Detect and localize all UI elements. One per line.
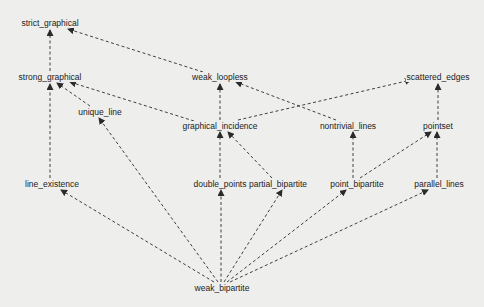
edge-unique_line-to-strong_graphical (57, 83, 90, 106)
node-weak-loopless: weak_loopless (191, 72, 249, 82)
node-graphical-incidence: graphical_incidence (181, 121, 258, 131)
node-strong-graphical: strong_graphical (18, 72, 83, 82)
edge-group (50, 29, 438, 282)
edges-layer (0, 0, 484, 307)
edge-weak_bipartite-to-line_existence (61, 190, 214, 282)
edge-partial_bipartite-to-graphical_incidence (228, 132, 272, 178)
edge-weak_bipartite-to-unique_line (99, 118, 218, 282)
edge-point_bipartite-to-pointset (360, 132, 431, 178)
node-unique-line: unique_line (77, 107, 122, 117)
node-point-bipartite: point_bipartite (329, 179, 384, 189)
node-parallel-lines: parallel_lines (413, 179, 465, 189)
edge-graphical_incidence-to-scattered_edges (238, 80, 411, 120)
node-pointset: pointset (422, 121, 454, 131)
node-weak-bipartite: weak_bipartite (194, 283, 251, 293)
node-double-points: double_points (193, 179, 248, 189)
edge-weak_bipartite-to-partial_bipartite (224, 190, 282, 282)
edge-weak_bipartite-to-parallel_lines (230, 190, 428, 282)
node-partial-bipartite: partial_bipartite (248, 179, 308, 189)
node-line-existence: line_existence (24, 179, 80, 189)
edge-weak_loopless-to-strict_graphical (68, 29, 203, 72)
dependency-diagram: strict_graphicalstrong_graphicalweak_loo… (0, 0, 484, 307)
edge-weak_bipartite-to-point_bipartite (227, 190, 346, 282)
node-strict-graphical: strict_graphical (20, 18, 79, 28)
node-nontrivial-lines: nontrivial_lines (319, 121, 377, 131)
node-scattered-edges: scattered_edges (406, 72, 471, 82)
